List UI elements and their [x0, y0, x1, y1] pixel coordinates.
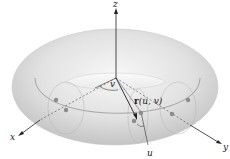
z-axis-label: z [112, 0, 118, 9]
r-args: (u, v) [139, 96, 163, 106]
point-right-front [170, 112, 174, 116]
point-left-front [64, 108, 68, 112]
u-angle-label: u [147, 148, 153, 158]
y-axis-arrow [216, 140, 222, 144]
x-axis-label: x [10, 132, 15, 142]
y-axis-label: y [222, 142, 229, 152]
x-axis-arrow [18, 131, 24, 136]
r-vector-label: r(u, v) [134, 96, 163, 106]
point-front-center [139, 111, 143, 115]
point-r-tip [132, 119, 136, 123]
point-left-back [54, 98, 58, 102]
point-right-back [186, 98, 190, 102]
torus-figure: z x y v u r(u, v) [0, 0, 230, 159]
v-angle-label: v [110, 79, 115, 89]
x-axis [21, 120, 40, 134]
torus-diagram: z x y v u r(u, v) [0, 0, 230, 159]
y-axis [190, 125, 218, 142]
